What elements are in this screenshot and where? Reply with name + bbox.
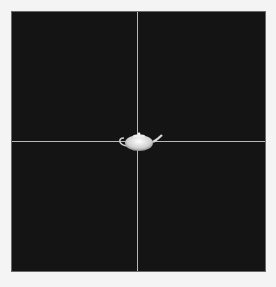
3d-viewport[interactable] <box>11 11 266 272</box>
teapot-model[interactable] <box>118 130 164 152</box>
